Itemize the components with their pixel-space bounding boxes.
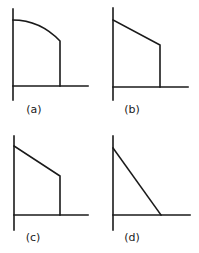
panel-c: (c) bbox=[14, 136, 88, 244]
curve bbox=[113, 148, 161, 215]
panel-b: (b) bbox=[113, 8, 188, 116]
panel-label: (b) bbox=[124, 103, 140, 116]
panel-d: (d) bbox=[113, 136, 190, 244]
figure-canvas: (a) (b) (c) (d) bbox=[0, 0, 199, 253]
panel-label: (a) bbox=[26, 103, 41, 116]
panel-label: (c) bbox=[26, 231, 41, 244]
curve bbox=[113, 20, 160, 87]
curve bbox=[13, 20, 60, 86]
curve bbox=[14, 146, 60, 215]
panel-label: (d) bbox=[124, 231, 140, 244]
panel-a: (a) bbox=[13, 9, 88, 116]
